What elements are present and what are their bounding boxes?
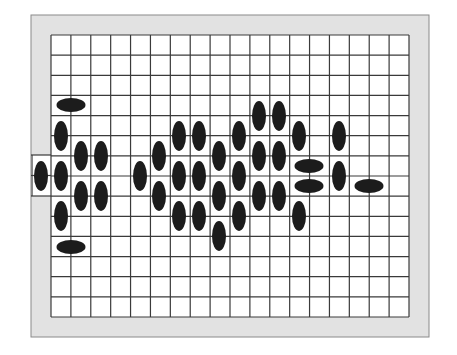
peg-vertical[interactable]	[192, 201, 206, 231]
peg-horizontal[interactable]	[355, 179, 384, 193]
peg-vertical[interactable]	[94, 181, 108, 211]
peg-vertical[interactable]	[272, 181, 286, 211]
peg-vertical[interactable]	[192, 161, 206, 191]
peg-vertical[interactable]	[332, 161, 346, 191]
peg-horizontal[interactable]	[57, 98, 86, 112]
peg-vertical[interactable]	[152, 141, 166, 171]
peg-vertical[interactable]	[212, 141, 226, 171]
peg-horizontal[interactable]	[57, 240, 86, 254]
peg-vertical[interactable]	[252, 181, 266, 211]
peg-vertical[interactable]	[212, 181, 226, 211]
peg-vertical[interactable]	[152, 181, 166, 211]
peg-vertical[interactable]	[54, 121, 68, 151]
peg-vertical[interactable]	[94, 141, 108, 171]
peg-vertical[interactable]	[332, 121, 346, 151]
peg-vertical[interactable]	[232, 201, 246, 231]
peg-vertical[interactable]	[272, 101, 286, 131]
peg-vertical[interactable]	[172, 201, 186, 231]
peg-vertical[interactable]	[54, 161, 68, 191]
game-board	[0, 0, 457, 355]
peg-horizontal[interactable]	[295, 179, 324, 193]
peg-vertical[interactable]	[34, 161, 48, 191]
peg-vertical[interactable]	[74, 141, 88, 171]
peg-vertical[interactable]	[54, 201, 68, 231]
peg-vertical[interactable]	[232, 161, 246, 191]
peg-vertical[interactable]	[133, 161, 147, 191]
peg-vertical[interactable]	[292, 201, 306, 231]
peg-vertical[interactable]	[74, 181, 88, 211]
peg-horizontal[interactable]	[295, 159, 324, 173]
peg-vertical[interactable]	[192, 121, 206, 151]
peg-vertical[interactable]	[172, 121, 186, 151]
peg-vertical[interactable]	[232, 121, 246, 151]
peg-vertical[interactable]	[252, 141, 266, 171]
peg-vertical[interactable]	[172, 161, 186, 191]
peg-vertical[interactable]	[292, 121, 306, 151]
peg-vertical[interactable]	[252, 101, 266, 131]
peg-vertical[interactable]	[212, 221, 226, 251]
peg-vertical[interactable]	[272, 141, 286, 171]
